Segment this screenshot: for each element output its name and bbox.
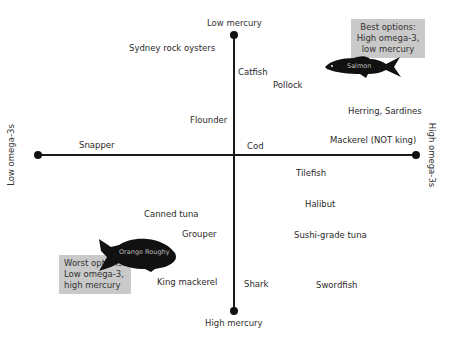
fish-label: Halibut xyxy=(305,199,335,209)
fish-label: Sydney rock oysters xyxy=(129,43,215,53)
fish-label: Flounder xyxy=(190,115,227,125)
fish-label: Catfish xyxy=(238,67,268,77)
salmon-label: Salmon xyxy=(347,62,371,70)
axis-label-high-mercury: High mercury xyxy=(205,318,263,328)
best-options-callout: Best options: High omega-3, low mercury xyxy=(351,19,425,58)
axis-right-endpoint xyxy=(412,151,420,159)
omega3-mercury-diagram: Low mercury High mercury Low omega-3s Hi… xyxy=(0,0,452,346)
fish-label: Sushi-grade tuna xyxy=(294,230,367,240)
orange-roughy-label: Orange Roughy xyxy=(119,248,170,256)
axis-bottom-endpoint xyxy=(230,307,238,315)
axis-label-low-mercury: Low mercury xyxy=(207,18,262,28)
fish-label: Swordfish xyxy=(316,280,357,290)
fish-label: Canned tuna xyxy=(144,209,199,219)
fish-label: Grouper xyxy=(182,229,217,239)
mercury-axis xyxy=(233,35,235,310)
fish-label: Shark xyxy=(244,279,268,289)
fish-label: Snapper xyxy=(79,140,115,150)
omega3-axis xyxy=(38,154,416,156)
axis-label-high-omega3: High omega-3s xyxy=(427,123,437,187)
axis-top-endpoint xyxy=(230,31,238,39)
fish-label: Tilefish xyxy=(296,168,326,178)
fish-label: Cod xyxy=(247,141,264,151)
fish-label: King mackerel xyxy=(157,277,217,287)
fish-label: Herring, Sardines xyxy=(348,106,422,116)
axis-left-endpoint xyxy=(34,151,42,159)
fish-label: Pollock xyxy=(273,80,303,90)
fish-label: Mackerel (NOT king) xyxy=(330,135,416,145)
axis-label-low-omega3: Low omega-3s xyxy=(6,124,16,186)
